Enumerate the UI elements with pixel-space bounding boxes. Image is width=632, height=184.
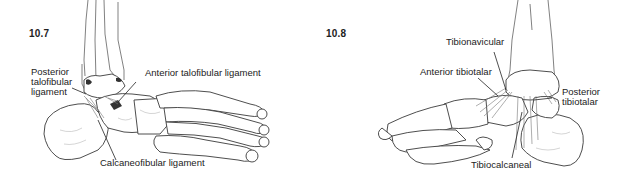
figure-number: 10.7 bbox=[29, 28, 49, 39]
label-tibiocalcaneal: Tibiocalcaneal bbox=[471, 160, 531, 170]
label-anterior-tibiotalar: Anterior tibiotalar bbox=[420, 67, 492, 77]
label-anterior-talofibular-ligament: Anterior talofibular ligament bbox=[145, 68, 261, 78]
figure-10-8-medial-ankle: 10.8 Tibionavicular Anterior tibiotalar … bbox=[316, 0, 632, 184]
label-posterior-tibiotalar: Posterior tibiotalar bbox=[562, 87, 600, 107]
label-tibionavicular: Tibionavicular bbox=[446, 37, 504, 47]
label-calcaneofibular-ligament: Calcaneofibular ligament bbox=[100, 158, 205, 168]
label-posterior-talofibular-ligament: Posterior talofibular ligament bbox=[31, 67, 72, 97]
figure-10-7-lateral-ankle: 10.7 Posterior talofibular ligament Ante… bbox=[0, 0, 316, 184]
figure-number: 10.8 bbox=[326, 28, 346, 39]
label-line: ligament bbox=[31, 87, 72, 97]
label-line: tibiotalar bbox=[562, 97, 600, 107]
